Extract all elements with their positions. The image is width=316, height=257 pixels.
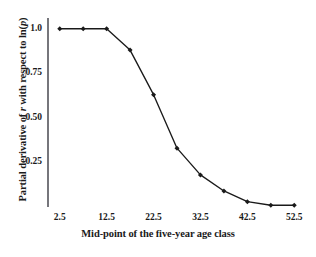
- data-point-marker: [81, 26, 86, 31]
- data-point-marker: [151, 92, 156, 97]
- data-point-markers: [57, 26, 297, 208]
- plot-area: [0, 0, 316, 257]
- data-line: [60, 29, 295, 206]
- chart-figure: Partial derivative of r with respect to …: [0, 0, 316, 257]
- data-point-marker: [245, 199, 250, 204]
- data-point-marker: [57, 26, 62, 31]
